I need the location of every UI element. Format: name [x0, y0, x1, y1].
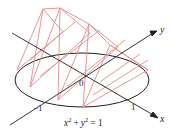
tick-pos-one-label: 1 — [131, 102, 136, 112]
x-axis-arrow-icon — [150, 112, 158, 118]
y-axis-label: y — [159, 24, 165, 35]
eq-rhs: = 1 — [90, 118, 103, 128]
origin-label: 0 — [79, 78, 84, 88]
triangular-cross-sections — [17, 8, 148, 107]
tick-neg-one-label: −1 — [33, 103, 43, 113]
solid-cross-section-diagram: x y 0 −1 1 x2+y2= 1 — [0, 0, 171, 133]
eq-y-exp: 2 — [85, 116, 88, 123]
x-axis-label: x — [159, 113, 165, 124]
disk-equation: x2+y2= 1 — [63, 116, 103, 128]
eq-x-exp: 2 — [68, 116, 71, 123]
y-axis-arrow-icon — [150, 31, 157, 36]
eq-plus: + — [73, 118, 78, 128]
